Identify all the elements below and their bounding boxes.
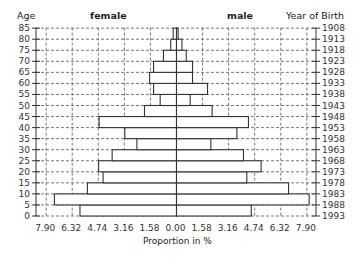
female-bar xyxy=(125,128,177,139)
female-label: female xyxy=(90,10,127,21)
male-bar xyxy=(177,161,262,172)
male-bar xyxy=(177,117,249,128)
birth-year-tick-label: 1908 xyxy=(322,23,345,33)
female-bar xyxy=(137,139,177,150)
age-tick-label: 45 xyxy=(19,112,30,122)
x-tick-label: 1.58 xyxy=(139,223,159,233)
age-axis-title: Age xyxy=(17,10,35,21)
age-tick-label: 85 xyxy=(19,23,30,33)
male-bar xyxy=(177,39,182,50)
birth-year-tick-label: 1978 xyxy=(322,178,345,188)
birth-year-axis-title: Year of Birth xyxy=(286,10,344,21)
x-tick-label: 1.58 xyxy=(192,223,212,233)
female-bar xyxy=(154,61,177,72)
male-bar xyxy=(177,50,187,61)
birth-year-tick-label: 1963 xyxy=(322,145,345,155)
age-tick-label: 55 xyxy=(19,89,30,99)
birth-year-tick-label: 1953 xyxy=(322,123,345,133)
x-tick-label: 7.90 xyxy=(35,223,55,233)
female-bar xyxy=(99,161,177,172)
female-bar xyxy=(87,183,176,194)
female-bar xyxy=(80,205,177,216)
age-tick-label: 20 xyxy=(19,167,30,177)
male-bar xyxy=(177,150,244,161)
female-bar xyxy=(160,94,176,105)
x-tick-label: 6.32 xyxy=(270,223,290,233)
x-axis-title: Proportion in % xyxy=(143,236,212,247)
age-tick-label: 65 xyxy=(19,67,30,77)
female-bar xyxy=(154,83,177,94)
x-tick-label: 6.32 xyxy=(61,223,81,233)
female-bar xyxy=(112,150,176,161)
male-bar xyxy=(177,172,247,183)
female-bar xyxy=(171,39,177,50)
birth-year-tick-label: 1958 xyxy=(322,134,345,144)
age-tick-label: 70 xyxy=(19,56,30,66)
female-bar xyxy=(54,194,176,205)
female-bar xyxy=(103,172,176,183)
age-tick-label: 35 xyxy=(19,134,30,144)
age-tick-label: 25 xyxy=(19,156,30,166)
birth-year-tick-label: 1933 xyxy=(322,78,345,88)
birth-year-tick-label: 1913 xyxy=(322,34,345,44)
x-tick-label: 7.90 xyxy=(296,223,316,233)
female-bar xyxy=(144,106,176,117)
male-label: male xyxy=(227,10,253,21)
birth-year-tick-label: 1943 xyxy=(322,101,345,111)
birth-year-tick-label: 1968 xyxy=(322,156,345,166)
male-bar xyxy=(177,183,289,194)
age-tick-label: 5 xyxy=(24,200,30,210)
x-tick-label: 3.16 xyxy=(113,223,133,233)
age-tick-label: 30 xyxy=(19,145,30,155)
male-bar xyxy=(177,106,213,117)
x-tick-label: 4.74 xyxy=(87,223,107,233)
female-bar xyxy=(163,50,176,61)
male-bar xyxy=(177,61,193,72)
population-pyramid-chart: Age female male Year of Birth 0510152025… xyxy=(0,0,363,262)
male-bar xyxy=(177,128,237,139)
x-tick-label: 4.74 xyxy=(244,223,264,233)
birth-year-tick-label: 1918 xyxy=(322,45,345,55)
male-bar xyxy=(177,139,211,150)
age-tick-label: 40 xyxy=(19,123,30,133)
birth-year-tick-label: 1993 xyxy=(322,211,345,221)
age-tick-label: 75 xyxy=(19,45,30,55)
female-bar xyxy=(150,72,177,83)
birth-year-tick-label: 1983 xyxy=(322,189,345,199)
age-tick-label: 10 xyxy=(19,189,30,199)
male-bar xyxy=(177,83,208,94)
male-bar xyxy=(177,205,252,216)
birth-year-tick-label: 1923 xyxy=(322,56,345,66)
male-bar xyxy=(177,94,191,105)
x-tick-label: 0.00 xyxy=(166,223,186,233)
age-tick-label: 0 xyxy=(24,211,30,221)
birth-year-tick-label: 1988 xyxy=(322,200,345,210)
age-tick-label: 15 xyxy=(19,178,30,188)
male-bar xyxy=(177,72,193,83)
birth-year-tick-label: 1938 xyxy=(322,89,345,99)
age-tick-label: 80 xyxy=(19,34,30,44)
x-tick-label: 3.16 xyxy=(218,223,238,233)
age-tick-label: 60 xyxy=(19,78,30,88)
female-bar xyxy=(99,117,176,128)
age-tick-label: 50 xyxy=(19,101,30,111)
birth-year-tick-label: 1928 xyxy=(322,67,345,77)
birth-year-tick-label: 1948 xyxy=(322,112,345,122)
male-bar xyxy=(177,194,310,205)
birth-year-tick-label: 1973 xyxy=(322,167,345,177)
